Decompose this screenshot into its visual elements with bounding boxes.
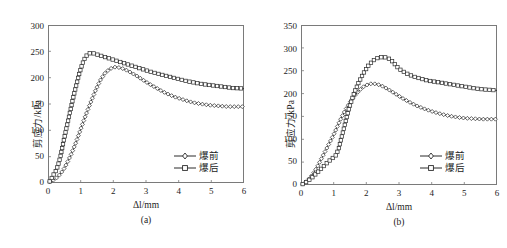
marker-square <box>145 69 148 72</box>
y-tick-b-200: 200 <box>273 89 297 99</box>
marker-square <box>68 111 71 114</box>
marker-diamond <box>220 104 224 108</box>
legend-a: 爆前 爆后 <box>174 150 219 174</box>
marker-diamond <box>224 105 228 109</box>
legend-marker-square-icon <box>174 163 196 173</box>
marker-diamond <box>373 82 377 86</box>
marker-square <box>360 74 363 77</box>
x-tick-b-3: 3 <box>389 188 409 198</box>
marker-square <box>413 75 416 78</box>
y-tick-b-300: 300 <box>273 44 297 54</box>
marker-diamond <box>328 139 332 143</box>
marker-square <box>428 79 431 82</box>
legend-b: 爆前 爆后 <box>420 150 465 174</box>
marker-square <box>141 68 144 71</box>
marker-square <box>239 87 242 90</box>
marker-diamond <box>109 66 113 70</box>
x-tick-a-4: 4 <box>169 186 189 196</box>
marker-diamond <box>162 90 166 94</box>
marker-diamond <box>193 101 197 105</box>
legend-item-a-before[interactable]: 爆前 <box>174 150 219 162</box>
marker-square <box>215 84 218 87</box>
marker-square <box>80 65 83 68</box>
marker-square <box>351 96 354 99</box>
marker-square <box>456 84 459 87</box>
marker-square <box>468 86 471 89</box>
marker-square <box>357 81 360 84</box>
marker-square <box>149 70 152 73</box>
marker-square <box>436 81 439 84</box>
marker-diamond <box>481 117 485 121</box>
marker-square <box>59 154 62 157</box>
marker-diamond <box>318 160 322 164</box>
marker-diamond <box>228 105 232 109</box>
x-tick-a-6: 6 <box>234 186 254 196</box>
marker-square <box>227 86 230 89</box>
marker-square <box>484 88 487 91</box>
marker-diamond <box>196 102 200 106</box>
chart-panel-b: 剪应力/kPa 350 300 250 200 150 100 50 0 <box>253 0 506 248</box>
marker-square <box>343 123 346 126</box>
marker-square <box>77 72 80 75</box>
marker-square <box>338 143 341 146</box>
marker-diamond <box>152 85 156 89</box>
marker-square <box>180 78 183 81</box>
marker-square <box>488 88 491 91</box>
marker-square <box>364 67 367 70</box>
marker-square <box>192 81 195 84</box>
marker-square <box>73 92 76 95</box>
marker-diamond <box>450 114 454 118</box>
y-tick-b-150: 150 <box>273 111 297 121</box>
marker-diamond <box>177 96 181 100</box>
marker-square <box>476 87 479 90</box>
marker-square <box>406 72 409 75</box>
x-tick-b-6: 6 <box>487 188 507 198</box>
marker-diamond <box>216 104 220 108</box>
marker-diamond <box>232 105 236 109</box>
marker-square <box>81 61 84 64</box>
series-b-before <box>301 82 498 186</box>
marker-square <box>184 79 187 82</box>
legend-label-a-before: 爆前 <box>199 150 219 162</box>
legend-item-b-after[interactable]: 爆后 <box>420 162 465 174</box>
marker-square <box>79 68 82 71</box>
marker-diamond <box>434 111 438 115</box>
x-tick-b-2: 2 <box>356 188 376 198</box>
marker-square <box>48 180 51 183</box>
legend-item-a-after[interactable]: 爆后 <box>174 162 219 174</box>
marker-square <box>399 68 402 71</box>
y-tick-b-350: 350 <box>273 21 297 31</box>
marker-square <box>83 57 86 60</box>
marker-square <box>235 87 238 90</box>
chart-panel-a: 剪应力/kPa 300 250 200 150 100 50 0 <box>0 0 253 248</box>
marker-square <box>63 135 66 138</box>
marker-square <box>72 96 75 99</box>
marker-square <box>472 86 475 89</box>
marker-square <box>52 173 55 176</box>
marker-square <box>421 77 424 80</box>
marker-diamond <box>365 83 369 87</box>
marker-square <box>345 115 348 118</box>
legend-item-b-before[interactable]: 爆前 <box>420 150 465 162</box>
x-tick-b-4: 4 <box>422 188 442 198</box>
marker-diamond <box>189 100 193 104</box>
marker-square <box>66 119 69 122</box>
marker-square <box>492 88 495 91</box>
x-tick-a-1: 1 <box>71 186 91 196</box>
x-tick-b-0: 0 <box>291 188 311 198</box>
marker-square <box>352 92 355 95</box>
y-tick-a-150: 150 <box>20 99 44 109</box>
marker-square <box>71 99 74 102</box>
marker-square <box>384 56 387 59</box>
legend-marker-square-icon <box>420 163 442 173</box>
marker-square <box>92 52 95 55</box>
marker-square <box>207 83 210 86</box>
marker-diamond <box>369 82 373 86</box>
y-tick-a-100: 100 <box>20 125 44 135</box>
marker-diamond <box>453 115 457 119</box>
marker-square <box>372 58 375 61</box>
legend-marker-diamond-icon <box>420 151 442 161</box>
marker-diamond <box>489 117 493 121</box>
marker-square <box>50 176 53 179</box>
x-tick-b-1: 1 <box>324 188 344 198</box>
